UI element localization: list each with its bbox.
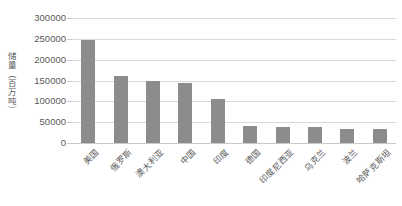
y-axis-tick-label: 300000 [0, 13, 66, 23]
bar [81, 40, 95, 143]
bar [146, 81, 160, 144]
bar-chart: 储量（百万吨） 30000025000020000015000010000050… [0, 0, 402, 206]
bar [211, 99, 225, 143]
bar [373, 129, 387, 143]
plot-area [72, 18, 396, 143]
bar [276, 127, 290, 143]
bar [114, 76, 128, 144]
gridline [72, 18, 396, 19]
x-axis-category-labels: 美国俄罗斯澳大利亚中国印度德国印度尼西亚乌克兰波兰哈萨克斯坦 [0, 143, 402, 206]
bar [243, 126, 257, 143]
bar [340, 129, 354, 143]
gridline [72, 60, 396, 61]
y-axis-title: 储量（百万吨） [2, 28, 16, 138]
bar [308, 127, 322, 143]
bar [178, 83, 192, 143]
gridline [72, 39, 396, 40]
